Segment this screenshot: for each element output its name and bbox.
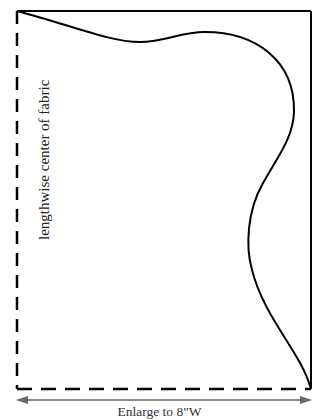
dimension-label: Enlarge to 8"W — [0, 404, 319, 420]
arrowhead-left-icon — [16, 396, 28, 404]
width-arrow — [16, 396, 312, 404]
arrowhead-right-icon — [300, 396, 312, 404]
fold-label: lengthwise center of fabric — [36, 80, 53, 240]
cut-curve — [17, 11, 311, 389]
